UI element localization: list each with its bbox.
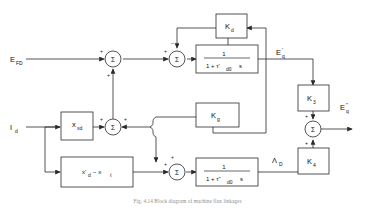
svg-text:+: +	[164, 161, 167, 167]
svg-text:FD: FD	[16, 60, 23, 66]
gain-kg-block[interactable]: K g	[196, 103, 239, 127]
sum-junction-1[interactable]: Σ + +	[100, 48, 121, 78]
figure-caption: Fig. 4.14 Block diagram of machine flux …	[0, 198, 375, 204]
svg-text:4: 4	[313, 162, 316, 168]
svg-text:d0: d0	[226, 66, 232, 72]
svg-text:+: +	[171, 154, 174, 160]
svg-text:x': x'	[82, 169, 86, 175]
svg-text:+: +	[100, 48, 103, 54]
svg-text:s: s	[240, 176, 243, 182]
svg-text:−: −	[171, 40, 174, 46]
svg-text:Σ: Σ	[175, 56, 179, 63]
svg-text:Σ: Σ	[311, 126, 315, 133]
svg-text:Σ: Σ	[175, 169, 179, 176]
svg-text:E: E	[340, 103, 345, 112]
svg-text:1 + τ": 1 + τ"	[206, 176, 221, 182]
svg-text:I: I	[10, 123, 12, 132]
wire-crossover-node	[150, 117, 156, 127]
svg-text:d0: d0	[227, 179, 233, 185]
transient-emf-output: E ' q	[276, 47, 285, 59]
svg-text:K: K	[211, 111, 216, 120]
damper-flux-signal: Λ D	[272, 156, 283, 167]
svg-text:+: +	[305, 140, 308, 146]
svg-text:xd: xd	[77, 125, 83, 131]
lag-subtransient-block[interactable]: 1 1 + τ" d0 s	[196, 158, 258, 186]
svg-text:K: K	[225, 22, 230, 31]
svg-text:q: q	[346, 108, 349, 114]
lag-transient-block[interactable]: 1 1 + τ' d0 s	[196, 45, 258, 73]
gain-k3-block[interactable]: K 3	[298, 85, 329, 111]
svg-text:3: 3	[313, 99, 316, 105]
svg-text:d: d	[15, 128, 18, 134]
svg-text:E: E	[10, 55, 15, 64]
svg-text:s: s	[239, 63, 242, 69]
svg-text:+: +	[305, 113, 308, 119]
svg-text:q: q	[282, 53, 285, 59]
gain-k4-block[interactable]: K 4	[298, 148, 329, 174]
svg-text:+: +	[124, 116, 127, 122]
svg-text:Σ: Σ	[111, 56, 115, 63]
sum-junction-2[interactable]: Σ + −	[164, 40, 185, 67]
svg-text:1 + τ': 1 + τ'	[206, 63, 220, 69]
reactance-xad-block[interactable]: x xd	[61, 112, 93, 140]
svg-text:Λ: Λ	[272, 156, 277, 165]
block-diagram-canvas: E FD I d K d 1 1 + τ' d0 s E '	[0, 0, 375, 213]
svg-text:+: +	[164, 48, 167, 54]
svg-text:+: +	[107, 72, 110, 78]
svg-text:+: +	[100, 116, 103, 122]
field-voltage-input: E FD	[10, 55, 23, 66]
svg-text:K: K	[307, 157, 312, 166]
d-axis-current-input: I d	[10, 123, 18, 134]
svg-text:K: K	[307, 94, 312, 103]
gain-kd-block[interactable]: K d	[216, 14, 247, 38]
svg-text:Σ: Σ	[111, 124, 115, 131]
wire-crossover-node-lower	[150, 127, 156, 137]
svg-text:D: D	[279, 161, 283, 167]
svg-text:E: E	[276, 48, 281, 57]
svg-text:g: g	[217, 116, 220, 122]
sum-junction-3[interactable]: Σ + +	[100, 116, 127, 135]
subtransient-emf-output: E " q	[340, 102, 349, 114]
svg-text:d: d	[231, 27, 234, 33]
reactance-difference-block[interactable]: x' d − x ℓ	[61, 157, 133, 187]
svg-text:x: x	[72, 120, 76, 129]
svg-text:d: d	[88, 172, 91, 178]
svg-text:− x: − x	[93, 169, 101, 175]
sum-junction-4[interactable]: Σ + +	[164, 154, 185, 180]
